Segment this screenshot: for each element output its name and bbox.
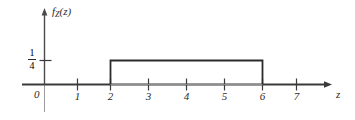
y-tick-label-quarter: 1 4	[25, 48, 39, 71]
x-tick-label-7: 7	[289, 91, 305, 102]
x-tick-label-4: 4	[179, 91, 195, 102]
x-axis-label: z	[336, 89, 340, 100]
fraction-denominator: 4	[25, 61, 39, 72]
y-axis-arrow-icon	[42, 8, 48, 16]
x-tick-label-6: 6	[255, 91, 271, 102]
y-axis-label: fZ(z)	[52, 6, 71, 19]
origin-label: 0	[34, 89, 40, 100]
fraction-numerator: 1	[25, 48, 39, 59]
x-tick-label-5: 5	[217, 91, 233, 102]
x-tick-label-1: 1	[70, 91, 86, 102]
x-tick-label-3: 3	[141, 91, 157, 102]
x-tick-label-2: 2	[103, 91, 119, 102]
y-axis-label-arg: (z)	[60, 5, 72, 17]
probability-density-figure: fZ(z) 1 4 0 1 2 3 4 5 6 7 z	[0, 0, 355, 120]
x-axis-arrow-icon	[324, 81, 332, 87]
